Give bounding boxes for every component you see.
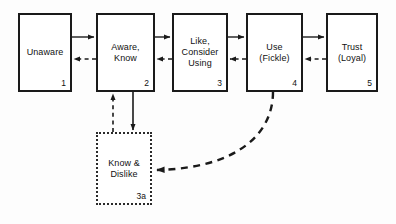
node-like-consider-using-number: 3 [217, 78, 222, 88]
node-aware-know[interactable]: Aware, Know 2 [96, 13, 155, 92]
node-trust-loyal-number: 5 [367, 78, 372, 88]
node-trust-loyal[interactable]: Trust (Loyal) 5 [326, 13, 378, 92]
connector-use-to-dislike [157, 92, 273, 170]
node-unaware-label: Unaware [27, 47, 64, 58]
node-like-consider-using[interactable]: Like, Consider Using 3 [172, 13, 228, 92]
node-use-fickle[interactable]: Use (Fickle) 4 [246, 13, 303, 92]
flow-diagram: Unaware 1 Aware, Know 2 Like, Consider U… [0, 0, 396, 224]
node-use-fickle-number: 4 [292, 78, 297, 88]
node-like-consider-using-label: Like, Consider Using [182, 36, 219, 69]
node-aware-know-label: Aware, Know [111, 42, 139, 64]
node-use-fickle-label: Use (Fickle) [259, 42, 289, 64]
node-unaware-number: 1 [61, 78, 66, 88]
node-know-dislike-label: Know & Dislike [108, 158, 140, 180]
node-trust-loyal-label: Trust (Loyal) [338, 42, 366, 64]
node-unaware[interactable]: Unaware 1 [18, 13, 72, 92]
node-know-dislike[interactable]: Know & Dislike 3a [96, 132, 152, 205]
node-aware-know-number: 2 [144, 78, 149, 88]
node-know-dislike-number: 3a [137, 191, 146, 201]
